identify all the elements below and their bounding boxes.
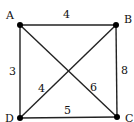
weighted-graph: 438465 ABCD: [0, 0, 134, 122]
edge-weight-label: 3: [9, 65, 16, 78]
edge-weight-label: 8: [121, 64, 128, 77]
node-label: D: [5, 112, 14, 122]
edge-weight-label: 5: [64, 104, 71, 117]
node-c: [114, 114, 120, 120]
node-d: [17, 115, 23, 121]
edge-weight-label: 4: [63, 8, 70, 21]
node-a: [17, 22, 23, 28]
node-b: [113, 22, 119, 28]
edge-weight-label: 6: [90, 81, 97, 94]
node-label: B: [124, 13, 132, 26]
node-label: A: [5, 9, 15, 22]
edge-weight-label: 4: [38, 82, 45, 95]
node-label: C: [125, 112, 133, 122]
edge-d-c: [20, 117, 117, 118]
edge-b-c: [116, 25, 117, 117]
